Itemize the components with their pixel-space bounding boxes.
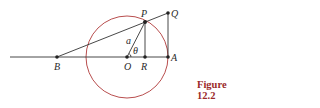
- point-R: [143, 55, 147, 59]
- label-radius-a: a: [126, 35, 131, 46]
- label-Q: Q: [171, 8, 179, 19]
- angle-arc: [129, 54, 131, 58]
- point-A: [166, 55, 170, 59]
- point-B: [55, 55, 59, 59]
- label-A: A: [170, 52, 178, 63]
- label-B: B: [54, 61, 60, 72]
- figure-caption: Figure 12.2: [197, 79, 246, 101]
- point-O: [125, 55, 129, 59]
- label-O: O: [124, 61, 131, 72]
- point-Q: [166, 11, 170, 15]
- line-BQ: [57, 13, 168, 57]
- label-theta: θ: [133, 45, 138, 56]
- point-P: [143, 20, 147, 24]
- label-R: R: [140, 61, 147, 72]
- label-P: P: [140, 8, 147, 19]
